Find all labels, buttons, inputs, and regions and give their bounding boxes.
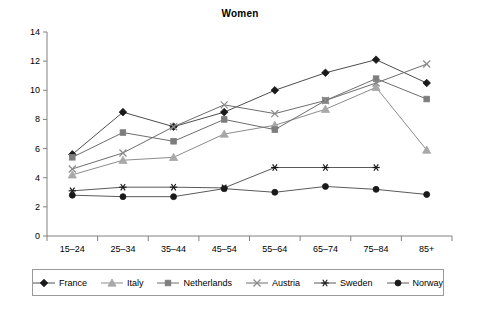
- chart-canvas: [0, 0, 480, 314]
- legend-item-norway[interactable]: Norway: [380, 278, 451, 288]
- x-axis-tick-label: 15–24: [60, 244, 85, 254]
- data-point-cross: [119, 149, 126, 156]
- x-axis-tick-label: 45–54: [212, 244, 237, 254]
- data-point-circle: [395, 280, 401, 286]
- legend-item-italy[interactable]: Italy: [94, 278, 151, 288]
- legend-item-austria[interactable]: Austria: [239, 278, 307, 288]
- legend-marker-cross-icon: [246, 278, 268, 288]
- y-axis-tick-label: 14: [14, 27, 40, 37]
- data-point-cross: [423, 61, 430, 68]
- legend-marker-square-icon: [157, 278, 179, 288]
- x-axis-tick-label: 25–34: [110, 244, 135, 254]
- data-point-triangle: [169, 153, 177, 160]
- data-point-asterisk: [119, 184, 126, 190]
- legend-label: Norway: [413, 278, 444, 288]
- data-point-square: [166, 280, 172, 286]
- data-point-square: [221, 117, 227, 123]
- x-axis-tick-label: 75–84: [364, 244, 389, 254]
- data-point-asterisk: [322, 164, 329, 170]
- legend-marker-diamond-icon: [33, 278, 55, 288]
- y-axis-tick-label: 6: [14, 144, 40, 154]
- x-axis-tick-label: 85+: [419, 244, 434, 254]
- data-point-diamond: [271, 86, 279, 94]
- data-point-square: [70, 155, 76, 161]
- legend-marker-triangle-icon: [101, 278, 123, 288]
- x-axis-tick-label: 65–74: [313, 244, 338, 254]
- series-line: [72, 60, 426, 155]
- data-point-circle: [322, 183, 328, 189]
- legend-item-sweden[interactable]: Sweden: [307, 278, 380, 288]
- legend-label: Austria: [272, 278, 300, 288]
- data-point-circle: [221, 186, 227, 192]
- data-point-diamond: [220, 108, 228, 116]
- legend-marker-circle-icon: [387, 278, 409, 288]
- data-point-circle: [373, 186, 379, 192]
- data-point-circle: [171, 194, 177, 200]
- y-axis-tick-label: 10: [14, 85, 40, 95]
- data-point-circle: [120, 194, 126, 200]
- chart-legend: FranceItalyNetherlandsAustriaSwedenNorwa…: [32, 269, 444, 296]
- data-point-triangle: [321, 105, 329, 112]
- chart-figure: Women 02468101214 15–2425–3435–4445–5455…: [0, 0, 480, 314]
- data-point-square: [120, 130, 126, 136]
- y-axis-tick-label: 8: [14, 114, 40, 124]
- legend-item-netherlands[interactable]: Netherlands: [150, 278, 239, 288]
- legend-marker-asterisk-icon: [314, 278, 336, 288]
- data-point-diamond: [322, 69, 330, 77]
- y-axis-tick-label: 4: [14, 173, 40, 183]
- data-point-square: [272, 127, 278, 133]
- data-point-diamond: [372, 56, 380, 64]
- x-axis-tick-label: 35–44: [161, 244, 186, 254]
- data-point-diamond: [40, 279, 48, 287]
- y-axis-tick-label: 12: [14, 56, 40, 66]
- y-axis-tick-label: 0: [14, 231, 40, 241]
- data-point-circle: [424, 191, 430, 197]
- legend-label: France: [59, 278, 87, 288]
- legend-label: Sweden: [340, 278, 373, 288]
- data-point-circle: [272, 189, 278, 195]
- legend-item-france[interactable]: France: [26, 278, 94, 288]
- series-france: [69, 56, 431, 158]
- data-point-asterisk: [321, 279, 328, 285]
- data-point-square: [424, 96, 430, 102]
- data-point-asterisk: [372, 164, 379, 170]
- x-axis-tick-label: 55–64: [262, 244, 287, 254]
- legend-label: Italy: [127, 278, 144, 288]
- legend-label: Netherlands: [183, 278, 232, 288]
- data-point-asterisk: [170, 184, 177, 190]
- data-point-circle: [69, 192, 75, 198]
- data-point-diamond: [423, 79, 431, 87]
- data-point-square: [171, 138, 177, 144]
- data-point-asterisk: [271, 164, 278, 170]
- y-axis-tick-label: 2: [14, 202, 40, 212]
